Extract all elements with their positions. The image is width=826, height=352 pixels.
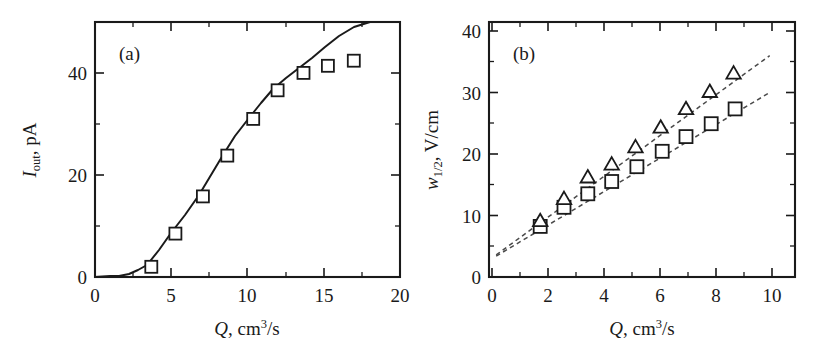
panel-a-x-tick-labels: 0 5 10 15 20 <box>90 285 409 306</box>
panel-a-data-markers <box>145 55 359 273</box>
panel-b-x-axis-label: Q, cm3/s <box>609 317 674 339</box>
panel-a-xlabel-sep: , cm <box>228 318 261 339</box>
panel-b-y-minor-ticks <box>489 62 795 247</box>
panel-b-x-tick-labels: 0 2 4 6 8 10 <box>487 285 781 306</box>
panel-b-square-markers <box>534 102 742 233</box>
panel-a-ytick-0: 0 <box>78 267 88 288</box>
panel-b-xtick-4: 8 <box>711 285 721 306</box>
panel-b-y-axis-label: w1/2, V/cm <box>421 110 445 190</box>
panel-b-xtick-0: 0 <box>487 285 497 306</box>
panel-b-ylabel-var: w <box>421 177 442 190</box>
panel-b-xtick-3: 6 <box>655 285 665 306</box>
panel-a-x-axis-label: Q, cm3/s <box>214 317 279 339</box>
svg-text:Q, cm3/s: Q, cm3/s <box>214 317 279 339</box>
panel-b-y-major-ticks <box>489 31 795 277</box>
panel-a-xtick-0: 0 <box>90 285 100 306</box>
panel-a-y-axis-label: Iout, pA <box>19 122 43 178</box>
panel-a-xtick-1: 5 <box>166 285 176 306</box>
panel-b-xtick-1: 2 <box>543 285 553 306</box>
panel-a-tag: (a) <box>119 43 140 65</box>
panel-b-ytick-4: 40 <box>462 21 481 42</box>
panel-b-ylabel-sub: 1/2 <box>431 161 445 177</box>
panel-a-y-minor-ticks <box>95 124 400 226</box>
panel-b: (b) 0 2 4 6 8 10 0 10 20 30 40 w1/ <box>413 0 826 352</box>
panel-b-svg: (b) 0 2 4 6 8 10 0 10 20 30 40 w1/ <box>413 0 826 352</box>
panel-a: (a) 0 5 10 15 20 0 20 40 Iout, pA <box>0 0 413 352</box>
panel-a-xtick-3: 15 <box>315 285 334 306</box>
svg-text:Iout, pA: Iout, pA <box>19 122 43 178</box>
panel-a-ylabel-tail: , pA <box>19 122 40 155</box>
panel-b-ylabel-tail: , V/cm <box>421 110 442 162</box>
panel-a-ytick-1: 20 <box>68 165 87 186</box>
panel-a-y-major-ticks <box>95 73 400 277</box>
panel-b-ytick-3: 30 <box>462 83 481 104</box>
panel-b-xlabel-tail: /s <box>662 318 675 339</box>
panel-a-y-tick-labels: 0 20 40 <box>68 63 87 288</box>
panel-b-y-tick-labels: 0 10 20 30 40 <box>462 21 481 288</box>
svg-text:w1/2, V/cm: w1/2, V/cm <box>421 110 445 190</box>
panel-a-svg: (a) 0 5 10 15 20 0 20 40 Iout, pA <box>0 0 413 352</box>
panel-b-xlabel-sep: , cm <box>623 318 656 339</box>
panel-b-tag: (b) <box>513 43 535 65</box>
figure-container: (a) 0 5 10 15 20 0 20 40 Iout, pA <box>0 0 826 352</box>
panel-a-xtick-4: 20 <box>391 285 410 306</box>
panel-a-xlabel-var: Q <box>214 318 228 339</box>
panel-b-ytick-0: 0 <box>472 267 482 288</box>
panel-a-ylabel-sub: out <box>29 155 43 172</box>
panel-b-xtick-2: 4 <box>599 285 609 306</box>
panel-a-xlabel-tail: /s <box>267 318 280 339</box>
svg-text:Q, cm3/s: Q, cm3/s <box>609 317 674 339</box>
panel-b-ytick-1: 10 <box>462 206 481 227</box>
panel-a-ytick-2: 40 <box>68 63 87 84</box>
panel-b-triangle-markers <box>533 66 741 226</box>
panel-b-xlabel-var: Q <box>609 318 623 339</box>
panel-a-xtick-2: 10 <box>238 285 257 306</box>
panel-b-xtick-5: 10 <box>763 285 782 306</box>
panel-b-ytick-2: 20 <box>462 144 481 165</box>
